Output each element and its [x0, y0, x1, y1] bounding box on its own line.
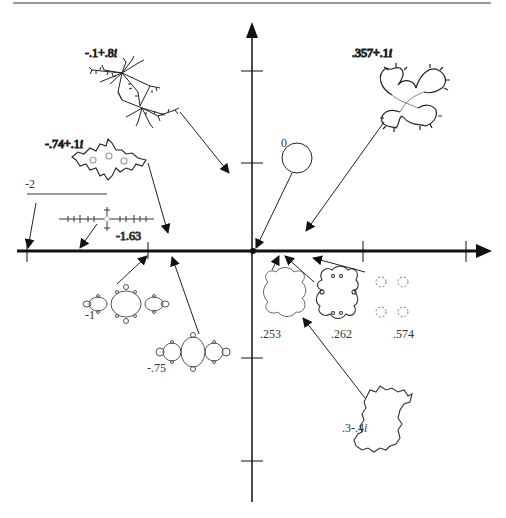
julia-set-0_3-minus-0_4i: .3-.4i: [342, 386, 412, 452]
arrow-neg1_63: [80, 224, 97, 248]
label-neg2: -2: [25, 177, 35, 191]
arrow-0_262: [285, 256, 314, 282]
julia-set-neg1: -1: [83, 285, 169, 324]
imaginary-axis-arrowhead-icon: [246, 22, 258, 38]
julia-set-0_262: .262: [316, 266, 358, 341]
julia-set-neg2: -2: [25, 177, 107, 194]
arrow-0_574: [313, 258, 365, 272]
julia-set-diagram: -.1+.8i .357+.1i -.74+.1i 0 -2: [0, 0, 506, 518]
label-0_574: .574: [393, 327, 414, 341]
complex-plane-axes: [17, 22, 492, 502]
label-neg0_75: -.75: [147, 361, 166, 375]
arrow-0: [256, 173, 292, 248]
label-0_262: .262: [331, 327, 352, 341]
real-axis-arrowhead-icon: [476, 244, 492, 258]
julia-set-neg0_1-plus-0_8i: -.1+.8i: [85, 46, 179, 128]
arrow-neg0_1-plus-0_8i: [180, 112, 229, 173]
julia-set-0: 0: [281, 136, 312, 173]
label-neg0_1-plus-0_8i: -.1+.8i: [85, 46, 117, 60]
arrow-0_253: [272, 256, 279, 270]
julia-set-neg1_63: -1.63: [59, 207, 154, 243]
julia-set-neg0_75: -.75: [147, 333, 230, 376]
julia-set-0_357-plus-0_1i: .357+.1i: [352, 46, 450, 132]
julia-set-0_574: .574: [376, 277, 414, 341]
arrow-neg0_74-plus-0_1i: [148, 163, 168, 233]
julia-set-neg0_74-plus-0_1i: -.74+.1i: [45, 137, 146, 180]
label-neg0_74-plus-0_1i: -.74+.1i: [45, 137, 83, 151]
arrow-neg2: [28, 203, 36, 248]
arrow-neg1: [117, 256, 147, 284]
label-0_253: .253: [260, 327, 281, 341]
arrow-0_357-plus-0_1i: [306, 122, 384, 231]
arrow-neg0_75: [172, 257, 199, 334]
julia-set-0_253: .253: [260, 268, 306, 342]
label-0_357-plus-0_1i: .357+.1i: [352, 46, 392, 60]
origin-dot: [250, 248, 256, 254]
label-neg1_63: -1.63: [116, 229, 141, 243]
label-0_3-minus-0_4i: .3-.4i: [342, 421, 367, 435]
label-neg1: -1: [85, 308, 95, 322]
